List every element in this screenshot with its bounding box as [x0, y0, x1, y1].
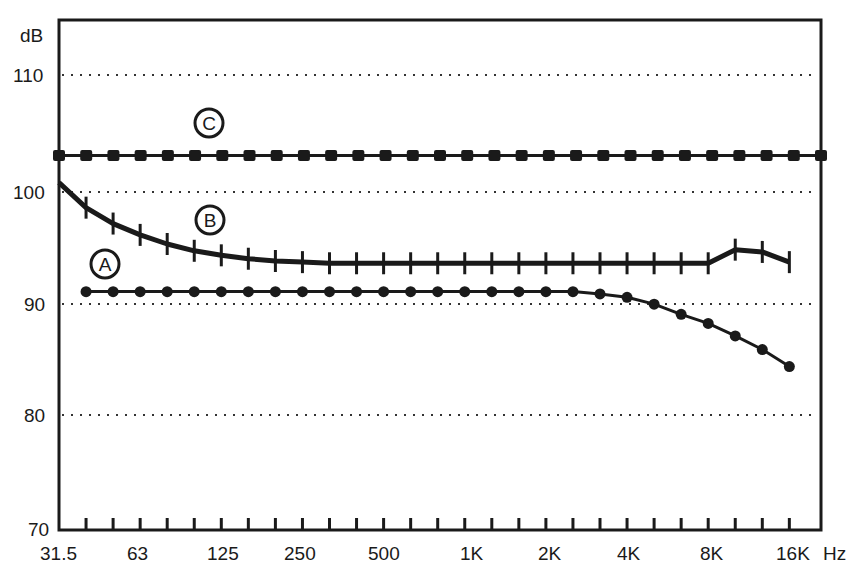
y-tick-80: 80 — [24, 405, 45, 426]
x-tick-2k: 2K — [538, 543, 562, 564]
point-a — [757, 344, 768, 355]
point-a — [405, 286, 416, 297]
point-c — [679, 150, 691, 161]
x-tick-marks — [86, 518, 789, 530]
point-a — [270, 286, 281, 297]
point-c — [733, 150, 745, 161]
point-c — [652, 150, 664, 161]
point-c — [761, 150, 773, 161]
y-tick-90: 90 — [24, 294, 45, 315]
point-c — [352, 150, 364, 161]
point-a — [784, 361, 795, 372]
curve-label-c: C — [195, 109, 223, 137]
point-c — [162, 150, 174, 161]
point-c — [107, 150, 119, 161]
svg-text:A: A — [99, 254, 112, 275]
y-axis-label: dB — [20, 25, 43, 46]
x-tick-1k: 1K — [460, 543, 484, 564]
point-c — [788, 150, 800, 161]
point-c — [325, 150, 337, 161]
point-a — [622, 292, 633, 303]
point-c — [271, 150, 283, 161]
x-tick-63: 63 — [127, 543, 148, 564]
point-c — [298, 150, 310, 161]
svg-text:C: C — [202, 113, 216, 134]
point-a — [324, 286, 335, 297]
x-tick-500: 500 — [368, 543, 400, 564]
point-a — [189, 286, 200, 297]
point-a — [432, 286, 443, 297]
curve-a — [86, 292, 789, 367]
point-a — [676, 309, 687, 320]
curves — [53, 150, 827, 372]
y-tick-70: 70 — [28, 519, 49, 540]
x-tick-31.5: 31.5 — [40, 543, 77, 564]
point-a — [297, 286, 308, 297]
point-a — [649, 299, 660, 310]
point-a — [351, 286, 362, 297]
x-tick-250: 250 — [284, 543, 316, 564]
y-tick-100: 100 — [13, 182, 45, 203]
point-a — [378, 286, 389, 297]
point-c — [189, 150, 201, 161]
point-c — [543, 150, 555, 161]
point-c — [407, 150, 419, 161]
frequency-response-chart: dB 110 100 90 80 70 31.5 63 125 250 500 … — [0, 0, 857, 585]
point-c — [706, 150, 718, 161]
point-c — [244, 150, 256, 161]
point-a — [540, 286, 551, 297]
point-c — [597, 150, 609, 161]
curve-label-a: A — [91, 250, 119, 278]
point-a — [513, 286, 524, 297]
point-a — [216, 286, 227, 297]
point-c — [216, 150, 228, 161]
point-c — [488, 150, 500, 161]
x-axis-unit: Hz — [823, 543, 846, 564]
point-c — [53, 150, 65, 161]
point-a — [459, 286, 470, 297]
point-a — [108, 286, 119, 297]
point-c — [434, 150, 446, 161]
y-tick-110: 110 — [13, 65, 43, 86]
point-a — [486, 286, 497, 297]
svg-text:B: B — [204, 210, 217, 231]
point-a — [135, 286, 146, 297]
point-c — [461, 150, 473, 161]
point-c — [516, 150, 528, 161]
point-c — [135, 150, 147, 161]
point-a — [243, 286, 254, 297]
point-c — [380, 150, 392, 161]
point-a — [730, 330, 741, 341]
point-c — [80, 150, 92, 161]
point-a — [703, 318, 714, 329]
point-a — [162, 286, 173, 297]
point-c — [815, 150, 827, 161]
point-a — [567, 286, 578, 297]
x-tick-125: 125 — [207, 543, 239, 564]
curve-label-b: B — [196, 206, 224, 234]
point-a — [595, 288, 606, 299]
point-c — [570, 150, 582, 161]
plot-frame — [59, 20, 821, 530]
point-c — [625, 150, 637, 161]
x-tick-4k: 4K — [617, 543, 641, 564]
x-tick-16k: 16K — [776, 543, 810, 564]
point-a — [81, 286, 92, 297]
x-tick-8k: 8K — [700, 543, 724, 564]
